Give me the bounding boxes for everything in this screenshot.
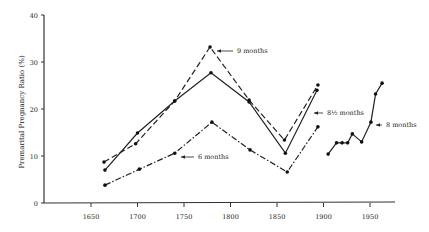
y-tick-label: 40 [30, 12, 38, 20]
data-point [208, 45, 212, 49]
data-point [138, 167, 142, 171]
series-annotation-label: 6 months [198, 153, 229, 161]
data-point [134, 142, 138, 146]
x-tick-label: 1950 [362, 213, 379, 221]
y-tick-label: 20 [30, 106, 38, 114]
x-tick-label: 1850 [269, 213, 286, 221]
x-tick-label: 1700 [129, 213, 146, 221]
data-point [326, 152, 330, 156]
x-tick-label: 1800 [222, 213, 239, 221]
data-point [316, 125, 320, 129]
data-point [340, 141, 344, 145]
data-point [374, 92, 378, 96]
line-chart: 0102030401650170017501800185019001950 9 … [0, 0, 429, 232]
data-point [248, 148, 252, 152]
data-point [369, 120, 373, 124]
series-annotation-label: 9 months [237, 47, 268, 55]
data-point [360, 140, 364, 144]
x-tick-label: 1650 [83, 213, 100, 221]
data-point [316, 83, 320, 87]
data-point [351, 132, 355, 136]
data-point [283, 138, 287, 142]
y-tick-label: 30 [30, 59, 38, 67]
data-point [285, 170, 289, 174]
data-point [284, 151, 288, 155]
arrowhead-icon [217, 49, 221, 53]
data-point [103, 168, 107, 172]
y-tick-label: 10 [30, 153, 38, 161]
arrowhead-icon [314, 111, 318, 115]
y-axis-label: Premarital Pregnancy Ratio (%) [18, 55, 26, 168]
x-axis-line [44, 202, 395, 203]
arrowhead-icon [376, 123, 380, 127]
data-point [102, 160, 106, 164]
data-point [173, 151, 177, 155]
data-point [346, 141, 350, 145]
series-annotation-label: 8 months [386, 121, 417, 129]
x-tick-label: 1750 [176, 213, 193, 221]
data-point [210, 120, 214, 124]
data-point [380, 81, 384, 85]
x-tick-label: 1900 [315, 213, 332, 221]
data-point [103, 183, 107, 187]
arrowhead-icon [181, 155, 185, 159]
data-point [173, 99, 177, 103]
annotations-group: 9 months8½ months6 months8 months [181, 47, 417, 161]
data-point [335, 141, 339, 145]
series-annotation-label: 8½ months [327, 109, 364, 117]
data-point [136, 131, 140, 135]
data-point [209, 71, 213, 75]
y-tick-label: 0 [34, 200, 38, 208]
data-point [315, 88, 319, 92]
data-point [247, 100, 251, 104]
